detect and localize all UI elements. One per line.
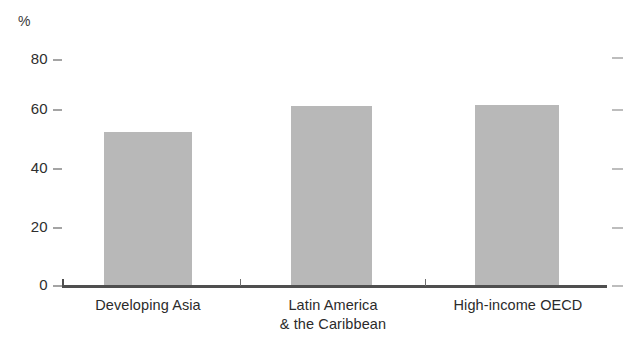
y-tick-mark-80 bbox=[53, 60, 62, 61]
right-tick-mark-40 bbox=[612, 169, 623, 170]
x-axis-tick-2 bbox=[425, 279, 426, 286]
y-axis-unit-label: % bbox=[18, 13, 31, 29]
y-tick-mark-60 bbox=[53, 110, 62, 111]
y-tick-mark-0 bbox=[53, 286, 62, 287]
x-axis-tick-1 bbox=[240, 279, 241, 286]
y-tick-mark-40 bbox=[53, 169, 62, 170]
y-tick-label-40: 40 bbox=[0, 159, 48, 176]
x-label-latin-america-caribbean: Latin America & the Caribbean bbox=[242, 296, 424, 334]
y-tick-label-0: 0 bbox=[0, 276, 48, 293]
x-label-line: Developing Asia bbox=[95, 297, 201, 313]
y-tick-label-60: 60 bbox=[0, 100, 48, 117]
x-label-developing-asia: Developing Asia bbox=[58, 296, 238, 315]
bar-latin-america-caribbean bbox=[291, 106, 372, 286]
x-axis-left-stub bbox=[62, 279, 64, 287]
y-tick-label-80: 80 bbox=[0, 50, 48, 67]
y-tick-mark-20 bbox=[53, 228, 62, 229]
bar-high-income-oecd bbox=[475, 105, 559, 286]
bar-chart: % 80 60 40 20 0 Developing Asia Latin Am… bbox=[0, 0, 642, 355]
x-axis-line bbox=[62, 285, 607, 288]
right-tick-mark-80 bbox=[612, 58, 623, 59]
right-tick-mark-20 bbox=[612, 228, 623, 229]
x-label-line-2: & the Caribbean bbox=[242, 315, 424, 334]
right-tick-mark-0 bbox=[612, 286, 623, 287]
right-tick-mark-60 bbox=[612, 110, 623, 111]
x-label-line: High-income OECD bbox=[454, 297, 583, 313]
x-label-line: Latin America bbox=[288, 297, 377, 313]
x-label-high-income-oecd: High-income OECD bbox=[428, 296, 608, 315]
bar-developing-asia bbox=[104, 132, 192, 286]
y-tick-label-20: 20 bbox=[0, 218, 48, 235]
